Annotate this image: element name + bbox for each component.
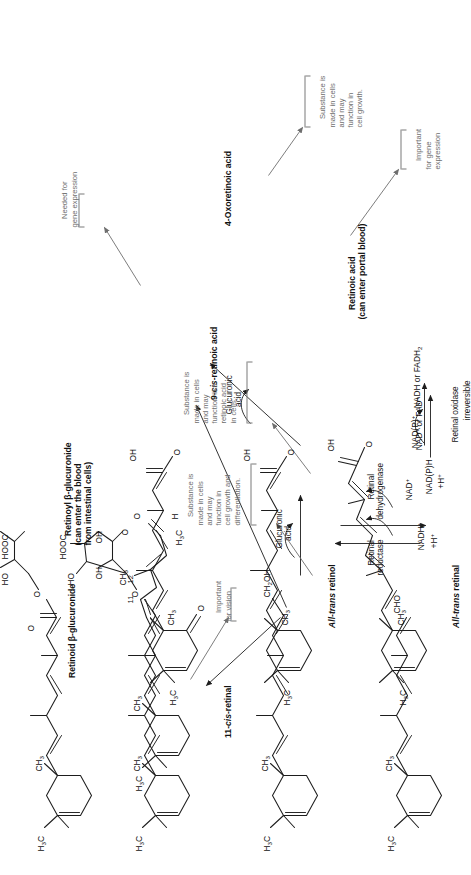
atom-label-o-retinoic: O <box>286 448 296 455</box>
annotation-important-for-vision: Importantfor vision <box>204 580 232 621</box>
cofactor-label-nadh-or-fadh2-out: NADH or FADH2 <box>402 346 423 417</box>
cofactor-label-nadph-h-out: NAD(P)H+H+ <box>414 459 447 503</box>
carbon-number-12: 12 <box>126 575 135 583</box>
annotation-cell-growth-differentiation: Substance ismade in cellsand mayfunction… <box>176 473 241 525</box>
compound-label-retinoyl-glucuronide: Retinoyl β-glucuronide(can enter the blo… <box>52 442 93 545</box>
atom-label-hooc-sugar-retinoyl: HOOC <box>0 534 10 559</box>
atom-label-o-9cis: O <box>364 440 374 447</box>
atom-label-o-ring-sugar-retinoid: O <box>120 528 130 535</box>
atom-label-o-glycosidic-retinoyl: O <box>32 590 42 597</box>
atom-label-ch3-ring-retinoyl-gluc: CH3 <box>34 755 45 771</box>
atom-label-ch2oh-retinol: CH2OH <box>262 569 273 597</box>
bracket-function-like-retinoic-acid <box>246 361 247 423</box>
compound-label-4-oxoretinoic-acid: 4-Oxoretinoic acid <box>212 150 232 235</box>
atom-label-ch3-ring-oxoretinoic: CH3 <box>166 609 177 625</box>
atom-label-h3c-ring-9cis: H3C <box>398 689 409 705</box>
atom-label-h3c-ring-retinol: H3C <box>262 835 273 851</box>
atom-label-ch3-ring-cis-retinal: CH3 <box>132 695 143 711</box>
atom-label-oh-sugar-retinoid-1: OH <box>94 566 104 579</box>
bracket-cell-growth <box>304 75 305 127</box>
enzyme-label-retinal-dehydrogenase: Retinaldehydrogenase <box>356 463 385 519</box>
leader-needed-for-gene-expression <box>104 227 140 285</box>
cofactor-label-nad-plus-out: NAD+ <box>392 478 415 509</box>
compound-label-retinoid-glucuronide: Retinoid β-glucuronide <box>56 583 76 687</box>
atom-label-oh-retinoic: OH <box>242 448 252 461</box>
compound-label-retinoic-acid: Retinoic acid(can enter portal blood) <box>336 223 366 319</box>
bracket-cell-growth-differentiation <box>250 463 251 525</box>
atom-label-h3c-ring-cis-retinal: H3C <box>134 775 145 791</box>
atom-label-h-aldehyde-cis: H <box>170 513 180 519</box>
compound-label-11-cis-retinal: 11-cis-retinal <box>212 685 232 747</box>
structure-all-trans-retinal <box>380 617 441 827</box>
leader-cell-growth <box>268 127 302 175</box>
atom-label-ch3-ring-retinol: CH3 <box>260 755 271 771</box>
atom-label-oh-9cis: OH <box>326 438 336 451</box>
atom-label-h3c-ring-retinal: H3C <box>386 835 397 851</box>
atom-label-ch3-ring-retinoic: CH3 <box>280 609 291 625</box>
atom-label-h3c-ring-retinoyl-gluc: H3C <box>36 835 47 851</box>
atom-label-ch3-ring-retinoid-gluc: CH3 <box>132 755 143 771</box>
atom-label-o-ketone-oxoretinoic: O <box>196 604 206 611</box>
structure-retinoic-acid <box>250 456 311 682</box>
atom-label-ch3-ring-9cis: CH3 <box>396 609 407 625</box>
annotation-important-for-gene-expression: Importantfor geneexpression <box>404 128 441 169</box>
atom-label-oh-oxoretinoic: OH <box>128 448 138 461</box>
atom-label-h3c-ring-retinoic: H3C <box>282 689 293 705</box>
atom-label-h3c-ring-oxoretinoic: H3C <box>168 689 179 705</box>
note-irreversible: irreversible <box>452 380 471 429</box>
annotation-needed-for-gene-expression: Needed forgene expression <box>50 171 78 227</box>
atom-label-oh-sugar-retinoid-2: OH <box>94 530 104 543</box>
compound-label-all-trans-retinal: All-trans retinal <box>440 564 460 637</box>
arrow-retinol-to-11-cis-retinal <box>206 617 280 685</box>
atom-label-o-ester-retinoyl: O <box>26 624 36 631</box>
atom-label-o-glycosidic-retinoid: O <box>130 590 140 597</box>
atom-label-ch3-ring-retinal: CH3 <box>384 755 395 771</box>
atom-label-h3c-aldehyde-cis: H3C <box>174 529 185 545</box>
atom-label-h3c-ring-retinoid-gluc: H3C <box>134 835 145 851</box>
atom-label-hooc-sugar-retinoid: HOOC <box>58 534 68 559</box>
atom-label-ho-sugar-retinoyl: HO <box>0 572 10 585</box>
annotation-function-like-retinoic-acid: Substance ismade in cellsand mayfunction… <box>172 371 237 423</box>
reagent-label-glucuronic-acid-upper: Glucuronicacid <box>264 509 293 557</box>
atom-label-ho-sugar-retinoid: HO <box>66 572 76 585</box>
atom-label-o-aldehyde-cis: O <box>132 512 142 519</box>
structure-all-trans-retinol <box>256 598 317 827</box>
enzyme-label-retinal-reductase: Retinalreductase <box>356 539 385 575</box>
structure-11-cis-retinal <box>128 519 189 767</box>
atom-label-o-oxoretinoic: O <box>172 448 182 455</box>
structure-retinoyl-beta-glucuronide <box>0 531 91 827</box>
bracket-important-for-gene-expression <box>400 129 401 169</box>
compound-label-all-trans-retinol: All-trans retinol <box>316 564 336 637</box>
annotation-cell-growth: Substance ismade in cellsand mayfunction… <box>308 75 364 127</box>
cofactor-label-nadh-h-in: NADH++H+ <box>404 522 439 559</box>
